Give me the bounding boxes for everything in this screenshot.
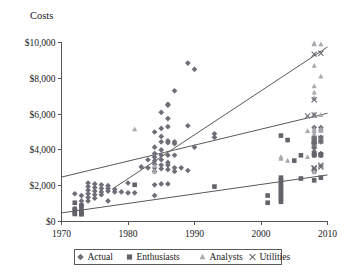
data-point [185,168,191,174]
data-point [172,169,178,175]
data-point [312,90,317,95]
legend-label: Enthusiasts [137,252,181,262]
chart-figure: $0$2,000$4,000$6,000$8,000$10,0001970198… [0,0,354,276]
data-point [318,74,323,79]
y-tick-label: $0 [46,217,56,227]
data-point [73,212,78,217]
data-point [312,153,317,158]
data-point [158,126,164,132]
data-point [165,181,171,187]
data-point [145,165,151,171]
cross-icon [250,254,256,260]
x-tick-label: 2010 [318,229,337,239]
data-point [172,152,178,158]
data-point [299,153,304,158]
data-point [158,166,164,172]
data-point [79,193,85,199]
data-point [305,154,310,159]
data-point [319,175,324,180]
data-point [292,158,297,163]
x-tick-label: 1980 [119,229,138,239]
legend-label: Analysts [210,252,244,262]
data-point [152,193,158,199]
data-point [132,183,137,188]
x-tick-label: 1990 [185,229,204,239]
data-point [305,128,310,133]
y-tick-label: $8,000 [29,74,55,84]
data-point [125,190,131,196]
series-actual [72,60,324,212]
data-point [158,134,164,140]
data-point [79,212,84,217]
data-point [312,41,317,46]
data-point [165,167,171,173]
data-point [212,184,217,189]
data-point [145,157,151,163]
data-point [178,165,184,171]
data-point [152,182,158,188]
diamond-icon [77,254,83,260]
data-point [158,139,164,145]
data-point [165,124,171,130]
data-point [85,198,91,204]
data-point [279,133,284,138]
data-point [152,144,158,150]
data-point [299,176,304,181]
data-point [212,135,218,141]
data-point [132,126,137,131]
data-point [92,195,98,201]
data-point [158,181,164,187]
data-point [72,191,78,197]
data-points-layer [72,41,324,217]
legend-item-utilities[interactable]: Utilities [250,252,291,262]
square-icon [127,254,132,259]
x-tick-label: 1970 [52,229,71,239]
data-point [318,41,323,46]
axis-labels-layer: $0$2,000$4,000$6,000$8,000$10,0001970198… [25,10,338,239]
triangle-icon [200,254,206,259]
data-point [192,66,198,72]
legend-item-enthusiasts[interactable]: Enthusiasts [127,252,180,262]
y-axis-title: Costs [30,10,53,21]
x-tick-label: 2000 [252,229,271,239]
data-point [158,109,164,115]
series-enthusiasts [73,133,324,216]
data-point [118,189,124,195]
chart-legend: ActualEnthusiastsAnalystsUtilities [75,250,291,265]
data-point [132,190,138,196]
data-point [158,147,164,153]
data-point [185,60,191,66]
data-point [165,102,171,108]
legend-item-analysts[interactable]: Analysts [200,252,243,262]
data-point [265,200,270,205]
data-point [172,88,178,94]
y-tick-label: $2,000 [29,181,55,191]
legend-label: Utilities [260,252,291,262]
data-point [285,138,290,143]
legend-label: Actual [88,252,114,262]
data-point [279,200,284,205]
data-point [312,63,317,68]
data-point [73,200,78,205]
data-point [165,116,171,122]
legend-item-actual[interactable]: Actual [77,252,113,262]
scatter-chart: $0$2,000$4,000$6,000$8,000$10,0001970198… [0,0,354,276]
data-point [185,123,191,129]
y-tick-label: $10,000 [25,38,56,48]
data-point [125,180,131,186]
data-point [265,193,270,198]
data-point [312,84,317,89]
data-point [285,158,290,163]
data-point [319,153,324,158]
y-tick-label: $6,000 [29,110,55,120]
data-point [312,178,317,183]
y-tick-label: $4,000 [29,145,55,155]
data-point [152,129,158,135]
data-point [105,198,111,204]
